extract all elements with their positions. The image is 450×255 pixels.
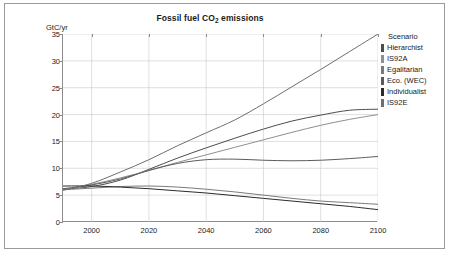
chart-title-main: Fossil fuel CO [156, 13, 215, 23]
legend-item[interactable]: Egalitarian [381, 64, 450, 75]
chart-screenshot: Fossil fuel CO2 emissions GtC/yr 0510152… [0, 0, 450, 255]
chart-title-tail: emissions [219, 13, 264, 23]
y-tick-label: 35 [52, 30, 60, 39]
series-line-eco-wec [63, 156, 378, 188]
x-tick-label: 2080 [312, 226, 329, 235]
x-tick-label: 2000 [83, 226, 100, 235]
legend-swatch-icon [381, 77, 384, 85]
legend-swatch-icon [381, 66, 384, 74]
y-tick-mark [60, 115, 63, 116]
x-tick-label: 2100 [370, 226, 387, 235]
y-tick-label: 25 [52, 83, 60, 92]
y-tick-mark [60, 141, 63, 142]
legend-item-label: IS92A [387, 54, 407, 63]
legend-title: Scenario [388, 32, 450, 41]
legend-item[interactable]: Individualist [381, 86, 450, 97]
y-tick-mark [60, 88, 63, 89]
y-tick-label: 20 [52, 110, 60, 119]
page-title: Fossil fuel CO2 emissions [45, 13, 375, 23]
chart-title-subscript: 2 [215, 17, 219, 24]
x-tick-label: 2040 [198, 226, 215, 235]
legend-item[interactable]: IS92A [381, 53, 450, 64]
x-tick-label: 2020 [141, 226, 158, 235]
legend-swatch-icon [381, 44, 384, 52]
legend-swatch-icon [381, 88, 384, 96]
plot-canvas [63, 34, 378, 222]
x-tick-mark [378, 34, 379, 37]
legend-item-label: Individualist [387, 87, 426, 96]
legend: Scenario HierarchistIS92AEgalitarianEco.… [381, 32, 450, 108]
series-line-individualist [63, 186, 378, 210]
legend-item[interactable]: Hierarchist [381, 42, 450, 53]
x-tick-mark [321, 34, 322, 37]
gridlines [63, 34, 378, 222]
chart-panel: Fossil fuel CO2 emissions GtC/yr 0510152… [4, 3, 445, 249]
y-tick-mark [60, 61, 63, 62]
y-tick-mark [60, 222, 63, 223]
legend-swatch-icon [381, 99, 384, 107]
y-tick-label: 10 [52, 164, 60, 173]
legend-item-label: Eco. (WEC) [387, 76, 427, 85]
legend-item-label: Egalitarian [387, 65, 422, 74]
series-line-is92e [63, 34, 378, 190]
legend-item-label: IS92E [387, 98, 407, 107]
y-tick-mark [60, 168, 63, 169]
legend-swatch-icon [381, 55, 384, 63]
plot-area: 05101520253035 200020202040206020802100 [62, 34, 377, 222]
x-tick-mark [206, 34, 207, 37]
series-line-is92a [63, 115, 378, 190]
y-tick-mark [60, 34, 63, 35]
legend-item[interactable]: Eco. (WEC) [381, 75, 450, 86]
y-tick-label: 15 [52, 137, 60, 146]
y-tick-mark [60, 195, 63, 196]
data-lines [63, 34, 378, 210]
x-tick-mark [149, 34, 150, 37]
legend-item-label: Hierarchist [387, 43, 423, 52]
y-tick-label: 30 [52, 56, 60, 65]
x-tick-mark [92, 34, 93, 37]
legend-items: HierarchistIS92AEgalitarianEco. (WEC)Ind… [381, 42, 450, 108]
series-line-hierarchist [63, 109, 378, 189]
x-tick-label: 2060 [255, 226, 272, 235]
x-tick-mark [263, 34, 264, 37]
legend-item[interactable]: IS92E [381, 97, 450, 108]
